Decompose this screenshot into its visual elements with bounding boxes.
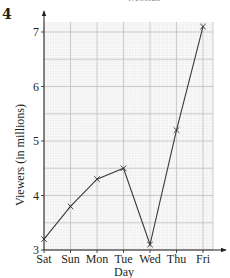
question-number: 4 <box>2 6 12 22</box>
x-tick-label: Sun <box>61 252 80 266</box>
y-tick-label: 5 <box>33 134 39 148</box>
x-tick-label: Mon <box>86 252 109 266</box>
cropped-title-fragment: Month <box>128 0 160 3</box>
graph-paper-grid <box>44 22 213 250</box>
chart-figure: Month 4 SatSunMonTueWedThuFri34567 Day V… <box>0 0 230 278</box>
x-tick-label: Fri <box>196 252 211 266</box>
x-tick-label: Wed <box>139 252 161 266</box>
y-tick-label: 6 <box>33 80 39 94</box>
x-tick-label: Tue <box>114 252 132 266</box>
x-axis-label: Day <box>114 265 134 278</box>
x-tick-label: Thu <box>167 252 186 266</box>
y-tick-label: 3 <box>33 243 39 257</box>
line-chart: SatSunMonTueWedThuFri34567 Day Viewers (… <box>0 0 230 278</box>
y-tick-label: 4 <box>33 189 39 203</box>
y-axis-label: Viewers (in millions) <box>13 104 27 206</box>
y-tick-label: 7 <box>33 25 39 39</box>
